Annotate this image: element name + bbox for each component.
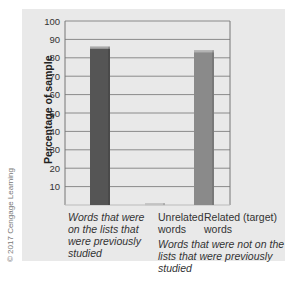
label-line: were previously xyxy=(68,235,158,247)
bar-side-shade xyxy=(108,47,110,205)
category-label-related: Related (target) words xyxy=(204,211,277,235)
bar-top-bevel xyxy=(194,50,214,52)
label-line: Words that were not on the xyxy=(158,238,285,250)
bar-side-shade xyxy=(212,50,214,205)
label-line: on the lists that xyxy=(68,223,158,235)
label-line: Unrelated xyxy=(158,211,204,223)
y-tick-label: 100 xyxy=(44,16,60,27)
label-line: words xyxy=(204,223,277,235)
bar-top-bevel xyxy=(90,47,110,49)
y-tick-label: 90 xyxy=(49,34,60,45)
group-annotation: Words that were not on the lists that we… xyxy=(158,238,285,274)
y-axis-label: Percentage of sample xyxy=(42,55,54,164)
bar xyxy=(90,47,110,205)
label-line: words xyxy=(158,223,204,235)
y-tick-label: 20 xyxy=(49,163,60,174)
category-label-unrelated: Unrelated words xyxy=(158,211,204,235)
category-label-studied: Words that were on the lists that were p… xyxy=(68,211,158,259)
y-tick-label: 10 xyxy=(49,181,60,192)
label-line: lists that were previously studied xyxy=(158,250,285,274)
label-line: studied xyxy=(68,247,158,259)
label-line: Related (target) xyxy=(204,211,277,223)
bar-top-bevel xyxy=(145,203,165,205)
chart-panel: 102030405060708090100 Percentage of samp… xyxy=(22,9,285,261)
copyright-credit: © 2017 Cengage Learning xyxy=(6,168,15,262)
bar xyxy=(194,50,214,205)
bar-side-shade xyxy=(163,203,165,205)
label-line: Words that were xyxy=(68,211,158,223)
